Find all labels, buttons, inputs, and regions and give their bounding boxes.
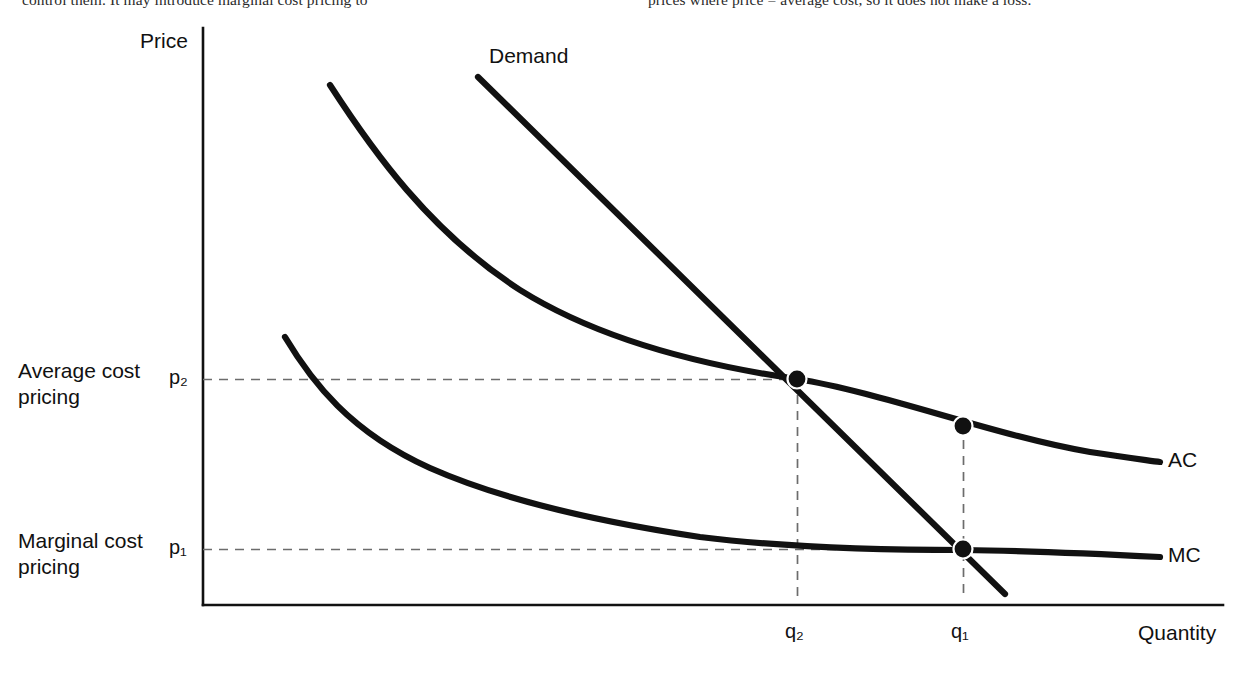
ac-curve [330, 85, 1160, 462]
demand-curve [478, 77, 1005, 594]
mc-curve-label: MC [1168, 542, 1201, 567]
y-tick-label-p2: p₂ [169, 365, 188, 390]
marginal-cost-pricing-annotation: Marginal cost pricing [18, 528, 143, 580]
x-axis-title: Quantity [1138, 620, 1216, 645]
mc-curve [285, 337, 1160, 557]
average-cost-pricing-line1: Average cost [18, 358, 140, 384]
ac-point-above-q1-dot [954, 417, 973, 436]
demand-ac-intersection-dot [788, 370, 807, 389]
top-body-text-right: prices where price = average cost, so it… [648, 0, 1031, 9]
ac-curve-label: AC [1168, 447, 1197, 472]
marginal-cost-pricing-line1: Marginal cost [18, 528, 143, 554]
economics-diagram: control them. It may introduce marginal … [0, 0, 1236, 681]
y-tick-label-p1: p₁ [169, 535, 187, 560]
y-axis-title: Price [140, 28, 188, 53]
x-tick-label-q1: q₁ [951, 619, 969, 644]
axes [203, 28, 1223, 605]
marginal-cost-pricing-line2: pricing [18, 554, 143, 580]
plot-canvas [0, 0, 1236, 681]
demand-mc-intersection-dot [954, 540, 973, 559]
top-body-text-left: control them. It may introduce marginal … [22, 0, 368, 9]
x-tick-label-q2: q₂ [785, 619, 804, 644]
guide-lines [203, 379, 964, 600]
demand-curve-label: Demand [489, 43, 568, 68]
average-cost-pricing-annotation: Average cost pricing [18, 358, 140, 410]
average-cost-pricing-line2: pricing [18, 384, 140, 410]
